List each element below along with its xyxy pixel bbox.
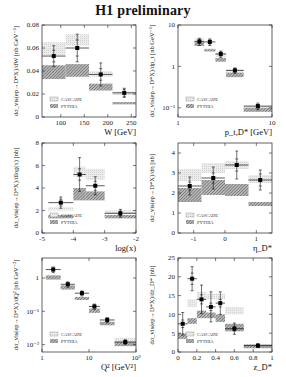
x-tick-label: 0 xyxy=(176,354,180,362)
data-point xyxy=(188,184,192,188)
y-axis-label: dσ_vis(ep→D*X)/dlog(x) [nb] xyxy=(12,148,20,229)
y-tick-label: 10⁻¹ xyxy=(162,104,175,112)
y-tick-label: 1 xyxy=(172,63,176,71)
x-tick-label: 1 xyxy=(270,354,274,362)
x-tick-label: 1 xyxy=(40,354,44,362)
y-axis-label: dσ_vis(ep→D*X)/dz_D* [nb] xyxy=(148,266,156,345)
y-tick-label: 10 xyxy=(168,21,176,29)
x-tick-label: 0 xyxy=(223,235,227,243)
legend-swatch-cascade xyxy=(50,97,58,101)
y-tick-label: 0.02 xyxy=(27,90,40,98)
pythia-band xyxy=(75,297,89,300)
pythia-band xyxy=(204,49,215,51)
y-tick-label: 1 xyxy=(36,274,40,282)
x-tick-label: 10² xyxy=(131,354,140,362)
y-axis-label: dσ_vis(ep→D*X)/dη [nb] xyxy=(148,154,156,222)
x-tick-label: 1 xyxy=(255,235,259,243)
data-point xyxy=(92,304,96,308)
data-point xyxy=(99,72,103,76)
legend-swatch-pythia xyxy=(186,104,194,108)
panel-logx: -5-4-3-202468log(x)dσ_vis(ep→D*X)/dlog(x… xyxy=(12,139,139,253)
y-tick-label: 4 xyxy=(36,184,40,192)
y-tick-label: 1 xyxy=(172,209,176,217)
y-tick-label: 0 xyxy=(172,229,176,237)
pythia-band xyxy=(113,102,137,104)
data-point xyxy=(190,277,194,281)
y-tick-label: 4 xyxy=(172,149,176,157)
panel-z: 00.20.40.60.810510152025z_D*dσ_vis(ep→D*… xyxy=(148,254,274,372)
cascade-band xyxy=(225,307,244,315)
legend-label-cascade: CASCADE xyxy=(197,332,218,337)
data-point xyxy=(75,46,79,50)
pythia-band xyxy=(249,202,273,206)
x-axis-label: log(x) xyxy=(115,243,136,253)
legend-swatch-cascade xyxy=(186,213,194,217)
x-tick-label: -2 xyxy=(133,235,139,243)
legend-swatch-pythia xyxy=(186,220,194,224)
y-tick-label: 15 xyxy=(168,292,176,300)
legend-label-cascade: CASCADE xyxy=(61,97,82,102)
legend-label-pythia: PYTHIA xyxy=(197,339,214,344)
data-point xyxy=(93,184,97,188)
x-tick-label: 0.6 xyxy=(230,354,239,362)
data-point xyxy=(233,68,237,72)
y-tick-label: 0 xyxy=(36,229,40,237)
data-point xyxy=(200,297,204,301)
legend-swatch-cascade xyxy=(50,332,58,336)
x-axis-label: W [GeV] xyxy=(104,127,136,137)
y-tick-label: 0.06 xyxy=(27,44,40,52)
data-point xyxy=(80,291,84,295)
data-point xyxy=(105,318,109,322)
data-point xyxy=(258,178,262,182)
data-point xyxy=(78,173,82,177)
x-tick-label: 150 xyxy=(79,119,90,127)
x-tick-label: -1 xyxy=(191,235,197,243)
y-tick-label: 0.04 xyxy=(27,67,40,75)
y-tick-label: 0 xyxy=(172,348,176,356)
y-axis-label: dσ_vis(ep→D*X)/dQ² [nb GeV⁻²] xyxy=(12,260,20,351)
y-tick-label: 0 xyxy=(36,113,40,121)
x-tick-label: 0.4 xyxy=(211,354,220,362)
y-tick-label: 0.08 xyxy=(27,21,40,29)
y-tick-label: 2 xyxy=(36,207,40,215)
x-tick-label: 10 xyxy=(86,354,94,362)
y-tick-label: 2 xyxy=(172,189,176,197)
legend-label-pythia: PYTHIA xyxy=(197,104,214,109)
legend-label-pythia: PYTHIA xyxy=(61,220,78,225)
y-tick-label: 10⁻¹ xyxy=(26,308,39,316)
data-point xyxy=(181,322,185,326)
legend-label-cascade: CASCADE xyxy=(61,332,82,337)
data-point xyxy=(208,40,212,44)
data-point xyxy=(197,39,201,43)
legend-swatch-cascade xyxy=(50,213,58,217)
x-tick-label: 100 xyxy=(56,119,67,127)
pythia-band xyxy=(46,275,61,279)
data-point xyxy=(118,211,122,215)
legend-label-pythia: PYTHIA xyxy=(61,104,78,109)
panel-pt: 11010⁻¹110p_t,D* [GeV]dσ_vis(ep→D*X)/dp_… xyxy=(148,21,276,137)
legend-swatch-cascade xyxy=(186,97,194,101)
x-tick-label: -5 xyxy=(39,235,45,243)
plot-frame xyxy=(42,143,136,233)
y-tick-label: 10 xyxy=(168,311,176,319)
data-point xyxy=(59,201,63,205)
legend-swatch-pythia xyxy=(186,339,194,343)
cascade-band xyxy=(187,299,196,307)
x-tick-label: -3 xyxy=(102,235,108,243)
data-point xyxy=(256,104,260,108)
pythia-band xyxy=(42,65,66,79)
legend-swatch-pythia xyxy=(50,339,58,343)
x-tick-label: 250 xyxy=(126,119,137,127)
y-tick-label: 10⁻² xyxy=(26,341,39,349)
y-tick-label: 5 xyxy=(172,330,176,338)
data-point xyxy=(218,301,222,305)
x-tick-label: 10 xyxy=(269,119,277,127)
y-tick-label: 8 xyxy=(36,139,40,147)
pythia-band xyxy=(215,58,226,62)
legend-label-cascade: CASCADE xyxy=(197,97,218,102)
x-tick-label: 1 xyxy=(176,119,180,127)
y-axis-label: dσ_vis(ep→D*X)/dp_t [nb GeV⁻¹] xyxy=(148,25,156,117)
y-axis-label: dσ_vis(ep→D*X)/dW [nb GeV⁻¹] xyxy=(12,26,20,116)
x-axis-label: p_t,D* [GeV] xyxy=(225,127,272,137)
pythia-band xyxy=(216,314,225,322)
